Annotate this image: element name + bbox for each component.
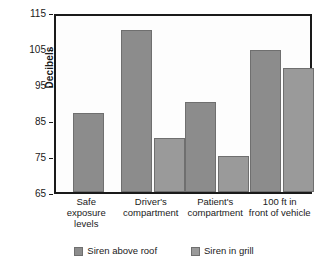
legend-item[interactable]: Siren in grill (191, 246, 254, 256)
bars-layer (56, 16, 310, 192)
chart-legend: Siren above roofSiren in grill (0, 246, 328, 256)
bar (218, 156, 249, 192)
bar (154, 138, 185, 192)
y-tick-mark (49, 194, 53, 195)
y-tick-mark (49, 86, 53, 87)
y-axis-title: Decibels (44, 23, 55, 113)
y-tick-label: 105 (16, 45, 46, 55)
bar (250, 50, 281, 192)
y-tick-mark (49, 50, 53, 51)
bar (121, 30, 152, 192)
y-tick-mark (49, 158, 53, 159)
series-2-swatch (191, 247, 200, 256)
plot-area (54, 14, 312, 194)
legend-label: Siren in grill (204, 246, 254, 256)
x-category-label: Patient'scompartment (183, 196, 248, 218)
series-1-swatch (74, 247, 83, 256)
y-tick-label: 115 (16, 9, 46, 19)
bar (73, 113, 104, 192)
x-category-label: Driver'scompartment (119, 196, 184, 218)
y-tick-mark (49, 122, 53, 123)
x-axis-category-labels: SafeexposurelevelsDriver'scompartmentPat… (54, 196, 312, 236)
y-tick-mark (49, 14, 53, 15)
y-tick-label: 75 (16, 153, 46, 163)
y-tick-label: 95 (16, 81, 46, 91)
y-tick-label: 65 (16, 189, 46, 199)
y-tick-label: 85 (16, 117, 46, 127)
bar (185, 102, 216, 192)
x-category-label: Safeexposurelevels (54, 196, 119, 229)
bar-chart: Decibels 65758595105115 Safeexposureleve… (0, 0, 328, 270)
legend-label: Siren above roof (87, 246, 157, 256)
legend-item[interactable]: Siren above roof (74, 246, 157, 256)
x-category-label: 100 ft infront of vehicle (248, 196, 313, 218)
bar (283, 68, 314, 192)
